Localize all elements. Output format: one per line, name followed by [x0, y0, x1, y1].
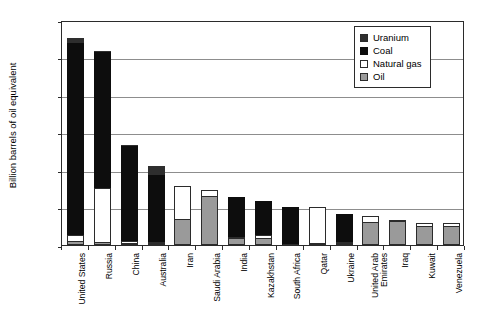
legend-label: Oil — [373, 72, 385, 82]
x-tick-mark — [249, 246, 250, 250]
bar-stack[interactable] — [309, 207, 326, 245]
bar-segment-coal[interactable] — [255, 201, 272, 235]
legend-swatch-icon — [360, 34, 368, 42]
bar-segment-oil[interactable] — [255, 238, 272, 246]
x-tick-mark — [115, 246, 116, 250]
x-tick-label: India — [240, 253, 249, 272]
x-tick-mark — [222, 246, 223, 250]
bar-stack[interactable] — [389, 220, 406, 246]
bar-stack[interactable] — [228, 197, 245, 245]
legend-item-uranium[interactable]: Uranium — [360, 31, 422, 44]
x-tick-mark — [88, 246, 89, 250]
x-tick-label: South Africa — [293, 253, 302, 299]
x-tick-label: United States — [78, 253, 87, 305]
x-tick-label: China — [132, 253, 141, 275]
x-tick-label: Iraq — [401, 253, 410, 268]
bar-segment-natural-gas[interactable] — [309, 207, 326, 243]
legend-label: Natural gas — [373, 59, 422, 69]
x-tick-label: Saudi Arabia — [213, 253, 222, 302]
bar-stack[interactable] — [416, 223, 433, 245]
bar-segment-coal[interactable] — [94, 52, 111, 188]
legend-swatch-icon — [360, 73, 368, 81]
x-tick-label: Qatar — [320, 253, 329, 275]
x-tick-label: Kazakhstan — [267, 253, 276, 298]
bar-segment-oil[interactable] — [443, 226, 460, 245]
legend-item-coal[interactable]: Coal — [360, 44, 422, 57]
x-tick-mark — [142, 246, 143, 250]
x-tick-mark — [195, 246, 196, 250]
bar-segment-oil[interactable] — [309, 243, 326, 245]
bar-stack[interactable] — [201, 190, 218, 246]
bar-segment-natural-gas[interactable] — [94, 188, 111, 242]
bar-stack[interactable] — [336, 214, 353, 245]
bar-segment-oil[interactable] — [121, 243, 138, 245]
bar-stack[interactable] — [255, 201, 272, 245]
bar-stack[interactable] — [67, 38, 84, 245]
bar-stack[interactable] — [121, 145, 138, 245]
x-tick-mark — [303, 246, 304, 250]
bar-stack[interactable] — [174, 186, 191, 245]
x-tick-mark — [276, 246, 277, 250]
bar-segment-oil[interactable] — [174, 219, 191, 245]
legend-item-natural-gas[interactable]: Natural gas — [360, 57, 422, 70]
x-tick-mark — [330, 246, 331, 250]
bar-segment-oil[interactable] — [336, 243, 353, 245]
legend-swatch-icon — [360, 60, 368, 68]
bar-stack[interactable] — [94, 51, 111, 245]
x-tick-label: Russia — [105, 253, 114, 279]
x-tick-label: Australia — [159, 253, 168, 286]
y-axis-title: Billion barrels of oil equivalent — [2, 0, 24, 250]
x-tick-mark — [168, 246, 169, 250]
bar-segment-uranium[interactable] — [148, 166, 165, 174]
x-tick-mark — [357, 246, 358, 250]
bar-segment-oil[interactable] — [416, 226, 433, 246]
x-tick-label: United Arab Emirates — [371, 253, 390, 305]
x-tick-mark — [61, 246, 62, 250]
legend-label: Coal — [373, 46, 393, 56]
bar-segment-oil[interactable] — [67, 241, 84, 245]
legend-item-oil[interactable]: Oil — [360, 70, 422, 83]
bar-segment-natural-gas[interactable] — [174, 186, 191, 219]
x-tick-label: Kuwait — [428, 253, 437, 279]
bar-segment-oil[interactable] — [94, 242, 111, 245]
bar-stack[interactable] — [148, 166, 165, 245]
y-axis-title-text: Billion barrels of oil equivalent — [8, 62, 19, 188]
x-tick-mark — [383, 246, 384, 250]
legend-swatch-icon — [360, 47, 368, 55]
bar-segment-coal[interactable] — [67, 43, 84, 236]
bar-segment-oil[interactable] — [389, 221, 406, 245]
bar-stack[interactable] — [362, 216, 379, 245]
bar-stack[interactable] — [282, 207, 299, 245]
bar-segment-coal[interactable] — [121, 146, 138, 241]
bar-segment-oil[interactable] — [201, 196, 218, 246]
legend-label: Uranium — [373, 33, 409, 43]
x-tick-label: Ukraine — [347, 253, 356, 283]
bar-stack[interactable] — [443, 223, 460, 245]
x-tick-mark — [437, 246, 438, 250]
chart-legend: UraniumCoalNatural gasOil — [354, 26, 431, 88]
chart-figure: Billion barrels of oil equivalent 020040… — [0, 0, 479, 331]
bar-segment-oil[interactable] — [148, 243, 165, 245]
bar-segment-coal[interactable] — [336, 214, 353, 242]
x-tick-label: Iran — [186, 253, 195, 268]
bar-segment-coal[interactable] — [282, 207, 299, 245]
bar-segment-oil[interactable] — [362, 222, 379, 245]
x-tick-mark — [464, 246, 465, 250]
bar-segment-coal[interactable] — [228, 197, 245, 237]
bar-segment-coal[interactable] — [148, 175, 165, 243]
x-tick-mark — [410, 246, 411, 250]
x-tick-label: Venezuela — [455, 253, 464, 293]
bar-segment-oil[interactable] — [228, 238, 245, 245]
